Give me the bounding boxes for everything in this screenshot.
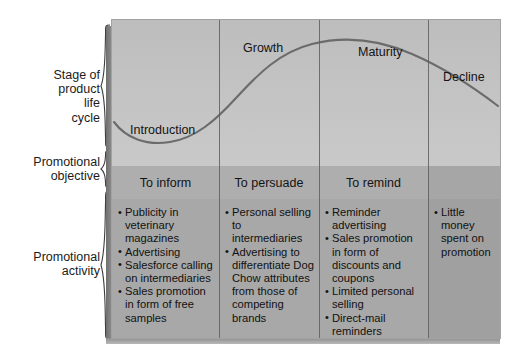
activity-cell-growth: Personal selling to intermediariesAdvert… [219,199,319,338]
activity-list-item: Advertising [118,246,214,259]
activity-list-item: Personal selling to intermediaries [225,206,314,246]
row-label-promotional-activity: Promotional activity [33,250,100,278]
row-label-promotional-objective: Promotional objective [33,155,100,183]
product-life-cycle-curve [112,20,500,166]
activity-cell-maturity: Reminder advertisingSales promotion in f… [319,199,428,338]
product-life-cycle-figure: g Stage of product life cycle Promotiona… [0,0,518,364]
panel-bottom-bevel [106,338,500,344]
column-divider-introduction-growth [219,20,220,338]
activity-cell-decline: Little money spent on promotion [428,199,500,338]
activity-list-growth: Personal selling to intermediariesAdvert… [225,206,314,325]
activity-list-maturity: Reminder advertisingSales promotion in f… [325,206,423,338]
activity-list-item: Publicity in veterinary magazines [118,206,214,246]
activity-list-item: Limited personal selling [325,285,423,311]
column-divider-growth-maturity [319,20,320,338]
row-label-stage-of-product-life-cycle: Stage of product life cycle [53,68,100,125]
activity-list-introduction: Publicity in veterinary magazinesAdverti… [118,206,214,325]
activity-list-item: Little money spent on promotion [434,206,495,259]
activity-list-item: Sales promotion in form of discounts and… [325,232,423,285]
activity-list-item: Reminder advertising [325,206,423,232]
stage-label-maturity: Maturity [358,45,402,59]
activity-list-item: Salesforce calling on intermediaries [118,259,214,285]
activity-cell-introduction: Publicity in veterinary magazinesAdverti… [112,199,219,338]
stage-label-introduction: Introduction [130,123,195,137]
objective-cell-to-inform: To inform [112,166,219,199]
column-divider-maturity-decline [428,20,429,338]
activity-list-item: Direct-mail reminders [325,312,423,338]
promotional-activity-row: Publicity in veterinary magazinesAdverti… [112,199,500,338]
activity-list-decline: Little money spent on promotion [434,206,495,259]
activity-list-item: Sales promotion in form of free samples [118,285,214,325]
objective-cell-decline [428,166,500,199]
stage-label-decline: Decline [443,70,485,84]
row-label-column: Stage of product life cycle Promotional … [0,0,100,364]
objective-cell-to-persuade: To persuade [219,166,319,199]
stage-label-growth: Growth [243,41,283,55]
activity-list-item: Advertising to differentiate Dog Chow at… [225,246,314,325]
matrix-panel: Introduction Growth Maturity Decline To … [112,20,500,338]
promotional-objective-row: To inform To persuade To remind [112,166,500,199]
product-life-cycle-row: Introduction Growth Maturity Decline [112,20,500,166]
objective-cell-to-remind: To remind [319,166,428,199]
